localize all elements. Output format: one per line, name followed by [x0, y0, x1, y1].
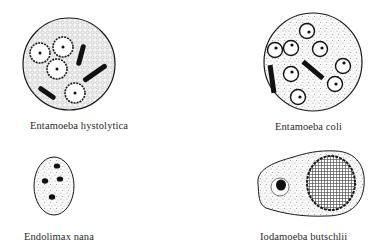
nucleus [284, 67, 299, 82]
entamoeba-coli-cyst [264, 13, 362, 111]
entamoeba-histolytica-cyst [23, 18, 115, 110]
nucleus [300, 24, 315, 39]
label-entamoeba-coli: Entamoeba coli [275, 121, 342, 132]
nucleus [284, 41, 299, 56]
nucleus [65, 83, 85, 103]
nucleus [268, 43, 283, 58]
karyosome [276, 180, 286, 191]
nucleus [30, 43, 50, 63]
nucleus [57, 176, 63, 181]
nucleus [291, 90, 306, 105]
nucleus [47, 59, 67, 79]
nucleus [336, 59, 351, 74]
nucleus [49, 194, 55, 200]
endolimax-nana-cyst [34, 157, 74, 215]
nucleus [313, 42, 328, 57]
label-iodamoeba-butschlii: Iodamoeba butschlii [260, 231, 347, 242]
label-entamoeba-histolytica: Entamoeba hystolytica [30, 120, 128, 131]
nucleus [328, 77, 343, 92]
nucleus [42, 178, 48, 184]
label-endolimax-nana: Endolimax nana [24, 231, 94, 242]
glycogen-vacuole [307, 156, 355, 210]
nucleus [53, 37, 73, 57]
iodamoeba-butschlii-cyst [258, 151, 364, 216]
nucleus [54, 163, 60, 168]
